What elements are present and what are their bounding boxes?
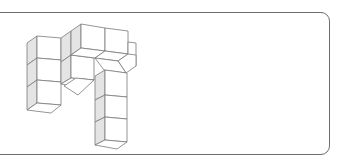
right-column [95,70,127,149]
diagram-canvas [0,0,341,168]
cube-front-face [37,80,61,105]
cube-front-face [37,36,61,60]
cube-front-face [105,117,127,142]
cube-front-face [71,55,94,80]
cube-front-face [37,58,61,82]
cube-front-face [105,70,127,97]
cube-front-face [105,28,128,54]
cube-front-face [81,24,105,51]
cube-front-face [105,95,127,119]
cube-structure-figure [0,0,341,168]
left-column [27,36,61,113]
